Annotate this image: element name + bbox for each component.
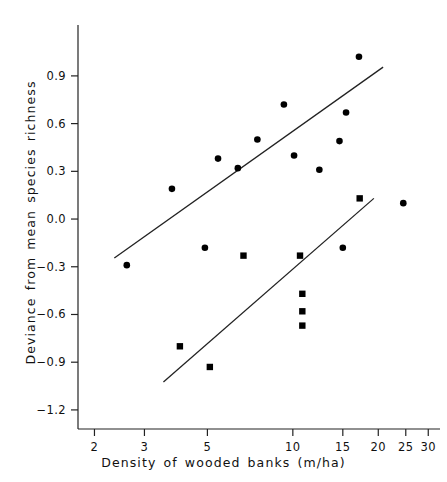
data-point-circle (340, 244, 347, 251)
data-point-square (240, 252, 246, 258)
upper-regression-line (114, 67, 383, 258)
data-point-circle (169, 186, 176, 193)
data-point-square (299, 291, 305, 297)
y-tick-label: 0.6 (47, 117, 67, 131)
data-point-circle (235, 165, 242, 172)
axes (78, 25, 440, 429)
data-point-circle (215, 155, 222, 162)
data-point-square (177, 343, 183, 349)
data-point-square (297, 252, 303, 258)
y-tick-label: −0.9 (36, 355, 66, 369)
data-point-square (299, 308, 305, 314)
x-tick-label: 10 (285, 440, 300, 454)
data-point-circle (400, 200, 407, 207)
data-point-circle (123, 262, 130, 269)
data-point-circle (343, 109, 350, 116)
x-tick-label: 3 (141, 440, 149, 454)
data-point-circle (356, 54, 363, 61)
scatter-plot-figure: 0.90.60.30.0−0.3−0.6−0.9−1.2 23510152025… (0, 0, 447, 482)
data-point-circle (202, 244, 209, 251)
data-point-circle (254, 136, 261, 143)
lower-regression-line (163, 198, 373, 382)
x-tick-label: 5 (204, 440, 212, 454)
y-tick-label: −1.2 (36, 403, 66, 417)
y-tick-label: −0.3 (36, 260, 66, 274)
data-point-circle (291, 152, 298, 159)
y-axis-title: Deviance from mean species richness (23, 58, 38, 388)
x-tick-label: 25 (398, 440, 413, 454)
y-tick-label: 0.0 (47, 212, 67, 226)
x-axis-title: Density of wooded banks (m/ha) (0, 455, 447, 470)
y-tick-label: 0.9 (47, 69, 67, 83)
y-tick-marks (71, 76, 78, 410)
plot-canvas (0, 0, 447, 482)
data-point-square (356, 195, 362, 201)
data-point-circle (281, 101, 288, 108)
data-markers (123, 54, 406, 371)
x-tick-label: 15 (335, 440, 350, 454)
data-point-circle (316, 166, 323, 173)
x-tick-label: 2 (91, 440, 99, 454)
x-tick-marks (94, 429, 428, 436)
y-tick-label: 0.3 (47, 164, 67, 178)
data-point-square (299, 322, 305, 328)
x-tick-label: 30 (421, 440, 436, 454)
y-tick-label: −0.6 (36, 307, 66, 321)
regression-lines (114, 67, 383, 382)
x-tick-label: 20 (371, 440, 386, 454)
data-point-circle (336, 138, 343, 145)
data-point-square (207, 364, 213, 370)
